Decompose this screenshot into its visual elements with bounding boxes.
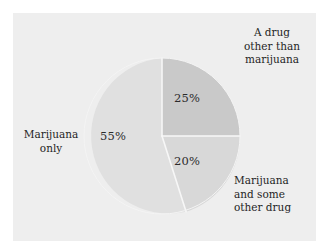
slice-label-marijuana-only-line2: only <box>12 142 90 156</box>
pie-chart-figure: 25% 55% 20% A drug other than marijuana … <box>0 0 329 252</box>
slice-label-marijuana-some-other: Marijuana and some other drug <box>234 174 318 215</box>
slice-label-marijuana-only: Marijuana only <box>12 128 90 155</box>
slice-label-other-drug-line3: marijuana <box>230 53 314 67</box>
slice-label-marijuana-some-other-line2: and some <box>234 188 318 202</box>
slice-label-marijuana-some-other-line3: other drug <box>234 201 318 215</box>
slice-label-marijuana-some-other-line1: Marijuana <box>234 174 318 188</box>
slice-label-other-drug: A drug other than marijuana <box>230 26 314 67</box>
slice-value-marijuana-only: 55% <box>100 129 126 143</box>
slice-label-other-drug-line1: A drug <box>230 26 314 40</box>
slice-label-other-drug-line2: other than <box>230 40 314 54</box>
slice-label-marijuana-only-line1: Marijuana <box>12 128 90 142</box>
slice-value-other-drug: 25% <box>174 91 200 105</box>
slice-value-marijuana-some-other: 20% <box>174 154 200 168</box>
